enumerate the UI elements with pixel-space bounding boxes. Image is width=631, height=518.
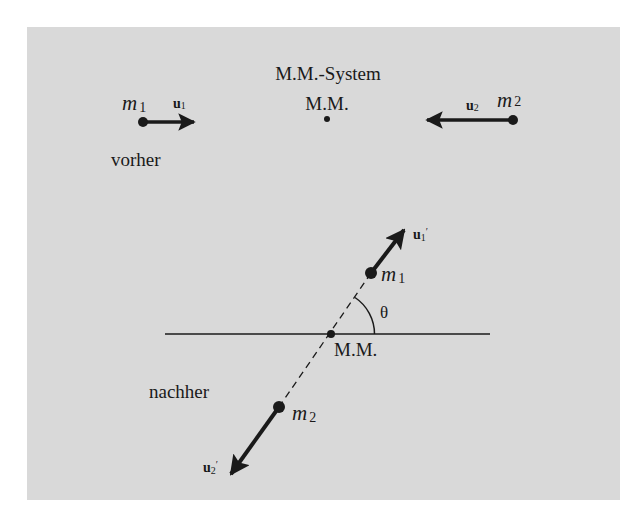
after-state: θ M.M. m1 u1′ m2 u2′ nachher	[149, 226, 490, 476]
before-state: m1 u1 M.M. u2 m2 vorher	[111, 88, 521, 170]
collision-diagram: M.M.-System m1 u1 M.M. u2 m2 vorher θ M.	[0, 0, 631, 518]
angle-arc	[355, 298, 375, 335]
after-velocity1-label: u1′	[413, 226, 428, 243]
after-velocity2-label: u2′	[203, 459, 218, 476]
diagram-title: M.M.-System	[275, 63, 381, 84]
before-mass2-dot	[508, 115, 518, 125]
before-mass1-label: m1	[122, 91, 146, 115]
before-center-of-mass-dot	[324, 116, 330, 122]
before-velocity1-label: u1	[173, 96, 186, 111]
after-mass1-dot	[365, 267, 377, 279]
before-mass2-label: m2	[497, 88, 521, 112]
before-label: vorher	[111, 149, 161, 170]
after-center-of-mass-label: M.M.	[334, 339, 377, 360]
after-mass2-dot	[273, 401, 285, 413]
after-mass2-label: m2	[292, 401, 316, 425]
after-label: nachher	[149, 381, 210, 402]
after-mass1-label: m1	[381, 262, 405, 286]
after-center-of-mass-dot	[327, 330, 335, 338]
before-center-of-mass-label: M.M.	[305, 93, 348, 114]
after-velocity2-arrow	[231, 407, 279, 474]
before-velocity2-label: u2	[466, 98, 479, 113]
angle-theta-label: θ	[380, 303, 388, 322]
before-mass1-dot	[138, 117, 148, 127]
